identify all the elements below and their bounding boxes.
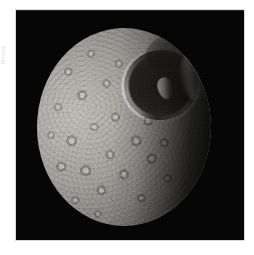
edge-caption-text: Mimas — [0, 8, 6, 104]
mimas-disk — [37, 28, 211, 226]
mimas-surface — [37, 28, 211, 226]
edge-caption: Mimas — [0, 8, 7, 104]
mimas-photograph[interactable] — [16, 10, 244, 240]
page-canvas: Mimas — [0, 0, 254, 255]
limb-darkening — [37, 28, 211, 226]
